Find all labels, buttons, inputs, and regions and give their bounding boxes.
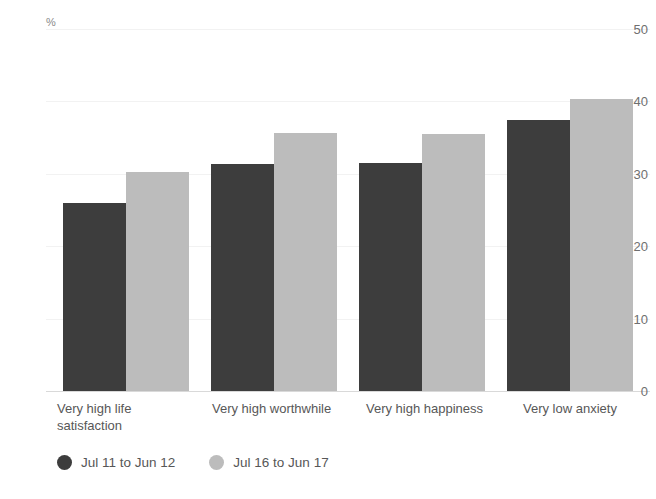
bar[interactable] — [422, 134, 485, 391]
legend-item-series-2[interactable]: Jul 16 to Jun 17 — [209, 455, 328, 470]
bar[interactable] — [63, 203, 126, 391]
bar[interactable] — [126, 172, 189, 391]
x-axis-category-label: Very high worthwhile — [212, 400, 331, 417]
bar-group — [211, 0, 337, 391]
bar[interactable] — [359, 163, 422, 391]
y-axis — [0, 0, 46, 420]
bar-chart: % 50403020100 Very high life satisfactio… — [0, 0, 656, 499]
x-axis-category-label: Very high happiness — [366, 400, 483, 417]
bar[interactable] — [570, 99, 633, 391]
legend: Jul 11 to Jun 12 Jul 16 to Jun 17 — [57, 455, 329, 470]
bar[interactable] — [274, 133, 337, 391]
y-axis-unit-label: % — [46, 17, 56, 28]
x-axis-category-label: Very low anxiety — [523, 400, 617, 417]
bar-group — [359, 0, 485, 391]
bar-group — [507, 0, 633, 391]
legend-swatch-icon — [209, 455, 224, 470]
legend-swatch-icon — [57, 455, 72, 470]
legend-item-label: Jul 16 to Jun 17 — [233, 455, 328, 470]
bar-group — [63, 0, 189, 391]
x-axis-baseline — [46, 391, 650, 392]
legend-item-series-1[interactable]: Jul 11 to Jun 12 — [57, 455, 175, 470]
bar[interactable] — [507, 120, 570, 391]
bar[interactable] — [211, 164, 274, 391]
x-axis-category-label: Very high life satisfaction — [57, 400, 131, 434]
legend-item-label: Jul 11 to Jun 12 — [81, 455, 175, 470]
